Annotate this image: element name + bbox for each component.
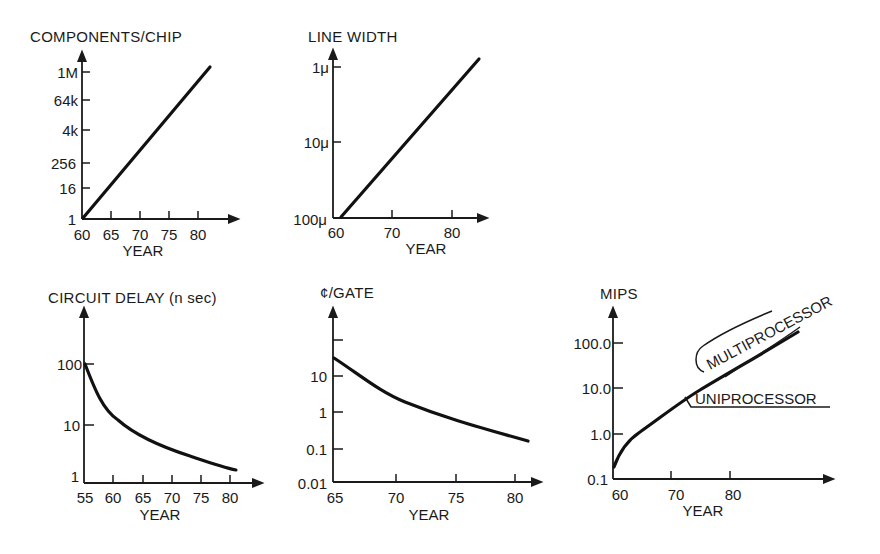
y-tick-label: 16 bbox=[59, 180, 76, 197]
chart-line-width: LINE WIDTH 100μ 10μ 1μ 60 70 80 YEAR bbox=[293, 28, 487, 257]
chart-title: ¢/GATE bbox=[320, 284, 374, 301]
x-tick-label: 75 bbox=[161, 226, 178, 243]
x-ticks bbox=[396, 474, 515, 482]
chart-title: CIRCUIT DELAY (n sec) bbox=[48, 289, 217, 306]
x-tick-label: 70 bbox=[388, 489, 405, 506]
x-tick-label: 70 bbox=[164, 489, 181, 506]
x-tick-label: 65 bbox=[103, 226, 120, 243]
y-tick-label: 10μ bbox=[304, 134, 329, 151]
x-tick-label: 65 bbox=[327, 489, 344, 506]
y-tick-label: 1μ bbox=[312, 59, 329, 76]
chart-components-per-chip: COMPONENTS/CHIP 1 16 256 4k 64k 1M 60 65… bbox=[30, 28, 238, 259]
x-axis-label: YEAR bbox=[123, 242, 164, 259]
x-tick-label: 65 bbox=[135, 489, 152, 506]
x-axis-label: YEAR bbox=[409, 506, 450, 523]
x-tick-label: 75 bbox=[193, 489, 210, 506]
y-tick-label: 10 bbox=[63, 417, 80, 434]
x-axis-label: YEAR bbox=[140, 506, 181, 523]
y-tick-label: 100 bbox=[57, 356, 82, 373]
y-tick-label: 1 bbox=[319, 404, 327, 421]
chart-title: MIPS bbox=[600, 285, 638, 302]
figure-canvas: COMPONENTS/CHIP 1 16 256 4k 64k 1M 60 65… bbox=[0, 0, 880, 554]
y-tick-label: 1.0 bbox=[590, 426, 611, 443]
delay-curve bbox=[85, 364, 236, 470]
multiprocessor-label: MULTIPROCESSOR bbox=[703, 292, 835, 373]
x-axis-label: YEAR bbox=[406, 240, 447, 257]
y-tick-label: 1M bbox=[57, 64, 78, 81]
x-tick-label: 55 bbox=[77, 489, 94, 506]
y-tick-label: 1 bbox=[71, 468, 79, 485]
chart-circuit-delay: CIRCUIT DELAY (n sec) 1 10 100 55 60 65 … bbox=[48, 289, 262, 523]
x-tick-label: 70 bbox=[132, 226, 149, 243]
cost-curve bbox=[334, 358, 528, 441]
y-tick-label: 100.0 bbox=[573, 335, 611, 352]
trend-line bbox=[83, 67, 210, 218]
chart-mips: MIPS 0.1 1.0 10.0 100.0 60 70 80 YEAR MU… bbox=[573, 285, 834, 519]
chart-cost-per-gate: ¢/GATE 0.01 0.1 1 10 65 70 75 80 YEAR bbox=[298, 284, 541, 523]
x-tick-label: 80 bbox=[190, 226, 207, 243]
y-tick-label: 0.1 bbox=[587, 471, 608, 488]
y-tick-label: 256 bbox=[51, 155, 76, 172]
x-axis-label: YEAR bbox=[683, 502, 724, 519]
y-tick-label: 64k bbox=[54, 92, 79, 109]
chart-title: COMPONENTS/CHIP bbox=[30, 28, 182, 45]
y-tick-label: 100μ bbox=[293, 211, 327, 228]
x-tick-label: 80 bbox=[507, 489, 524, 506]
x-tick-label: 70 bbox=[384, 224, 401, 241]
x-tick-label: 60 bbox=[612, 486, 629, 503]
x-ticks bbox=[113, 475, 230, 483]
y-ticks bbox=[613, 343, 623, 434]
y-tick-label: 10.0 bbox=[582, 380, 611, 397]
uniprocessor-label: UNIPROCESSOR bbox=[695, 390, 817, 407]
x-tick-label: 60 bbox=[74, 226, 91, 243]
y-tick-label: 0.1 bbox=[306, 441, 327, 458]
y-ticks bbox=[333, 67, 341, 142]
x-tick-label: 75 bbox=[448, 489, 465, 506]
x-ticks bbox=[671, 471, 730, 479]
y-ticks bbox=[333, 340, 343, 449]
trend-line bbox=[341, 59, 479, 217]
x-tick-label: 80 bbox=[725, 486, 742, 503]
y-ticks bbox=[82, 72, 90, 188]
y-tick-label: 4k bbox=[62, 122, 78, 139]
x-tick-label: 80 bbox=[222, 489, 239, 506]
x-tick-label: 60 bbox=[328, 224, 345, 241]
x-tick-label: 60 bbox=[105, 489, 122, 506]
x-ticks bbox=[111, 211, 198, 219]
y-tick-label: 0.01 bbox=[298, 475, 327, 492]
x-tick-label: 70 bbox=[668, 486, 685, 503]
chart-title: LINE WIDTH bbox=[308, 28, 398, 45]
y-tick-label: 10 bbox=[310, 368, 327, 385]
x-tick-label: 80 bbox=[444, 224, 461, 241]
x-ticks bbox=[392, 210, 452, 218]
